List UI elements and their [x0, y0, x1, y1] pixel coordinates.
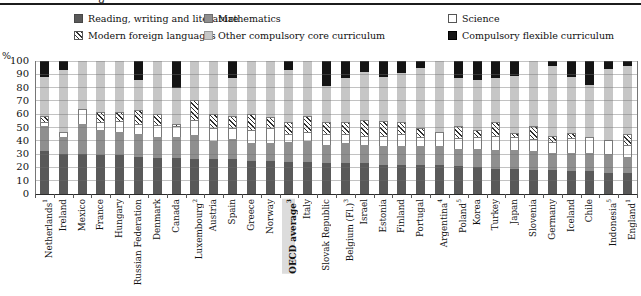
legend-swatch-modern-foreign-languages [74, 31, 83, 40]
x-axis-tick [411, 194, 412, 198]
bar-segment-math [284, 142, 293, 162]
bar-segment-reading [322, 163, 331, 194]
x-axis-label-text: Finland [396, 199, 406, 233]
bar-segment-math [115, 132, 124, 156]
bar-segment-reading [134, 157, 143, 194]
x-axis-tick [186, 194, 187, 198]
gridline-100 [35, 61, 637, 62]
bar-segment-reading [153, 158, 162, 194]
x-axis-tick [167, 194, 168, 198]
x-axis-label-mexico: Mexico [76, 199, 89, 231]
bar-segment-other [510, 76, 519, 133]
y-axis-label-10: 10 [3, 175, 29, 186]
bar-segment-mfl [266, 117, 275, 128]
x-axis-label-footnote: 5 [605, 199, 612, 203]
bar-segment-science [491, 136, 500, 151]
x-axis-tick [317, 194, 318, 198]
x-axis-label-footnote: 3 [285, 199, 292, 203]
x-axis-tick [54, 194, 55, 198]
x-axis-label-text: Austria [208, 199, 218, 231]
x-axis-tick [487, 194, 488, 198]
gridline-90 [35, 74, 637, 75]
x-axis-label-england: England1 [621, 199, 634, 240]
bar-segment-math [435, 146, 444, 165]
x-axis-tick [355, 194, 356, 198]
x-axis-label-text: Slovenia [528, 199, 538, 237]
x-axis-label-russian-federation: Russian Federation [132, 199, 145, 285]
x-axis-tick [562, 194, 563, 198]
chart-canvas: g Reading, writing and literature Mathem… [0, 0, 641, 296]
legend-label-science: Science [462, 13, 500, 24]
bar-segment-flexible [397, 61, 406, 73]
bar-segment-reading [190, 159, 199, 194]
plot-right-border [637, 61, 638, 194]
y-axis-label-80: 80 [3, 82, 29, 93]
y-axis-label-0: 0 [3, 188, 29, 199]
x-axis-label-footnote: 3 [342, 199, 349, 203]
x-axis-tick [543, 194, 544, 198]
bar-segment-other [529, 61, 538, 126]
legend-swatch-science [448, 14, 457, 23]
bar-segment-math [247, 143, 256, 160]
bar-segment-flexible [473, 61, 482, 80]
x-axis-tick [129, 194, 130, 198]
bar-segment-flexible [416, 61, 425, 68]
bar-segment-math [209, 141, 218, 160]
bar-segment-mfl [209, 114, 218, 127]
x-axis-tick [581, 194, 582, 198]
x-axis-tick [261, 194, 262, 198]
legend-swatch-compulsory-flexible [448, 31, 457, 40]
bar-segment-mfl [190, 100, 199, 120]
x-axis-label-text: France [95, 199, 105, 230]
bar-segment-science [510, 137, 519, 150]
bar-segment-mfl [303, 116, 312, 132]
bar-segment-science [78, 109, 87, 124]
bar-segment-math [567, 153, 576, 172]
x-axis-label-text: Chile [584, 199, 594, 222]
bar-segment-other [190, 61, 199, 100]
bar-segment-mfl [491, 122, 500, 135]
bar-segment-mfl [153, 114, 162, 125]
x-axis-label-text: Slovak Republic [321, 199, 331, 271]
x-axis-tick [430, 194, 431, 198]
x-axis-label-indonesia: Indonesia5 [602, 199, 615, 246]
x-axis-tick [298, 194, 299, 198]
x-axis-tick [148, 194, 149, 198]
bar-segment-math [585, 153, 594, 172]
x-axis-label-netherlands: Netherlands1 [38, 199, 51, 258]
bar-segment-other [585, 85, 594, 137]
x-axis-label-poland: Poland5 [452, 199, 465, 233]
bar-segment-science [209, 128, 218, 141]
bar-segment-reading [172, 158, 181, 194]
bar-segment-science [416, 137, 425, 146]
x-axis-tick [91, 194, 92, 198]
x-axis-tick [73, 194, 74, 198]
y-axis-label-60: 60 [3, 108, 29, 119]
x-axis-label-turkey: Turkey [489, 199, 502, 230]
legend-swatch-reading [74, 14, 83, 23]
bar-segment-reading [247, 161, 256, 194]
bar-segment-flexible [228, 61, 237, 78]
x-axis-label-footnote: 4 [436, 199, 443, 203]
bar-segment-math [266, 143, 275, 160]
bar-segment-flexible [454, 61, 463, 78]
bar-segment-other [435, 61, 444, 131]
bar-segment-math [96, 130, 105, 155]
x-axis-label-text: Greece [246, 199, 256, 231]
x-axis-label-text: Netherlands [44, 203, 54, 258]
x-axis-label-footnote: 2 [191, 199, 198, 203]
x-axis-label-greece: Greece [245, 199, 258, 231]
bar-segment-reading [510, 169, 519, 194]
bar-segment-flexible [604, 61, 613, 69]
bar-segment-reading [567, 171, 576, 194]
x-axis-label-text: Norway [265, 199, 275, 234]
x-axis-tick [374, 194, 375, 198]
bar-segment-other [172, 88, 181, 124]
bar-segment-other [397, 73, 406, 122]
legend-item-mathematics: Mathematics [204, 13, 281, 24]
bar-segment-science [134, 124, 143, 135]
bar-segment-mfl [416, 128, 425, 137]
x-axis-label-text: Japan [509, 199, 519, 224]
x-axis-label-text: Canada [171, 199, 181, 233]
x-axis-label-text: Ireland [58, 199, 68, 231]
